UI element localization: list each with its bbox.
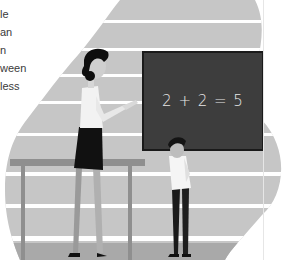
chalkboard-equation: 2 + 2 = 5 [143,52,263,150]
divider-line [263,0,264,260]
